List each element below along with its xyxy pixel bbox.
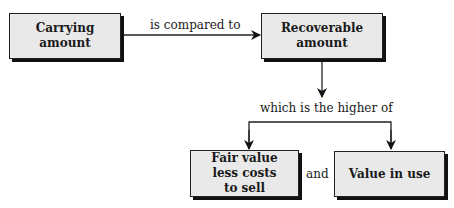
edge-label-higher-of: which is the higher of	[260, 101, 393, 115]
node-recoverable-amount: Recoverable amount	[261, 13, 383, 59]
node-value-in-use: Value in use	[334, 151, 445, 197]
edge-label-compared: is compared to	[150, 18, 240, 32]
node-carrying-amount: Carrying amount	[9, 13, 121, 59]
node-label: Fair value less costs to sell	[205, 151, 284, 196]
node-fair-value-less-costs: Fair value less costs to sell	[190, 150, 299, 197]
node-label: Carrying amount	[10, 21, 120, 51]
edge-label-and: and	[306, 167, 329, 181]
node-label: Value in use	[349, 167, 431, 182]
node-label: Recoverable amount	[262, 21, 382, 51]
bracket-line	[249, 122, 391, 148]
